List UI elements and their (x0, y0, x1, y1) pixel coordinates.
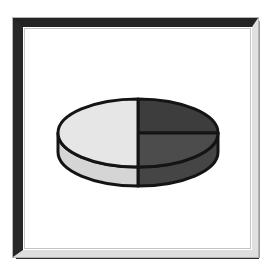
screenshot-root: { "canvas": { "background": "#ffffff" },… (0, 0, 268, 272)
framed-pie-chart-image[interactable] (13, 18, 258, 257)
frame-inner-line (24, 28, 251, 249)
